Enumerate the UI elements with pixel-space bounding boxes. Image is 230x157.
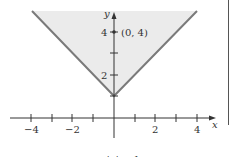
y-tick-label: 4 (101, 27, 107, 38)
y-tick-label: 2 (101, 70, 107, 81)
inequality-graph: x y −4 −2 2 4 2 4 (0, 4) y ≥ |x| + 1 (0, 0, 230, 157)
point-marker (112, 30, 116, 34)
y-axis-label: y (103, 8, 110, 19)
caption: y ≥ |x| + 1 (85, 154, 140, 157)
x-tick-label: −2 (65, 124, 80, 135)
point-label: (0, 4) (121, 27, 148, 38)
x-tick-label: 4 (194, 124, 200, 135)
x-axis-label: x (212, 119, 218, 130)
x-tick-label: 2 (152, 124, 158, 135)
x-tick-label: −4 (24, 124, 39, 135)
